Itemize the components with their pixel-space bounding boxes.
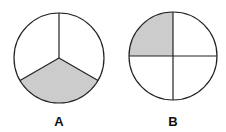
figure-label-a: A (54, 114, 63, 129)
figure-label-b: B (168, 114, 177, 129)
circle-a-thirds (14, 13, 104, 103)
circle-b-quarters (129, 12, 217, 100)
fraction-circles-diagram (0, 0, 226, 132)
circle-a-shaded-third (20, 58, 98, 103)
circle-b-shaded-quarter (129, 12, 173, 56)
